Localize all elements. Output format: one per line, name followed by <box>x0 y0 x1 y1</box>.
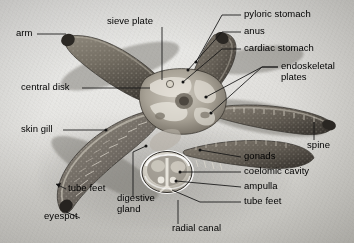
label-eyespot: eyespot <box>44 211 78 222</box>
label-radial-canal: radial canal <box>172 223 221 234</box>
label-pyloric-stomach: pyloric stomach <box>244 9 311 20</box>
label-tube-feet-left: tube feet <box>68 183 105 194</box>
label-tube-feet-right: tube feet <box>244 196 281 207</box>
leader-endpoints <box>105 61 213 183</box>
leader-endoskeletal-plates-2 <box>211 67 278 113</box>
leader-ampulla <box>176 181 241 187</box>
label-endoskeletal-plates: endoskeletal plates <box>281 61 345 82</box>
sea-star-anatomy-figure: arm sieve plate pyloric stomach anus car… <box>0 0 354 243</box>
label-skin-gill: skin gill <box>21 124 53 135</box>
arrow-tube-feet-left <box>56 183 61 188</box>
label-anus: anus <box>244 26 265 37</box>
label-central-disk: central disk <box>21 82 70 93</box>
label-digestive-gland: digestive gland <box>117 193 169 214</box>
label-gonads: gonads <box>244 151 275 162</box>
leader-digestive-gland <box>133 146 146 197</box>
label-coelomic-cavity: coelomic cavity <box>244 166 309 177</box>
label-leader-lines <box>0 0 354 243</box>
leader-endoskeletal-plates-1 <box>206 67 278 97</box>
leader-tube-feet-right <box>172 190 241 202</box>
label-ampulla: ampulla <box>244 181 278 192</box>
leader-anus <box>188 32 241 70</box>
label-sieve-plate: sieve plate <box>107 16 153 27</box>
label-spine: spine <box>307 140 330 151</box>
label-cardiac-stomach: cardiac stomach <box>244 43 314 54</box>
label-arm: arm <box>16 28 33 39</box>
leader-gonads <box>200 150 241 157</box>
leader-pyloric-stomach <box>196 15 241 62</box>
